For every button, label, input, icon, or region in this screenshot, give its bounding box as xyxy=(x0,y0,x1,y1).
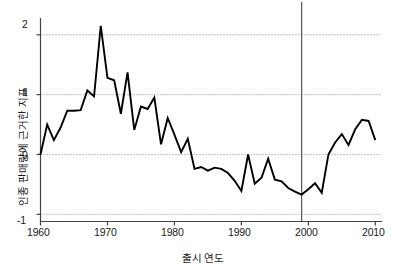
data-series-line xyxy=(41,26,376,195)
x-tick-label-2010: 2010 xyxy=(362,226,385,238)
x-axis-title: 출시 연도 xyxy=(0,250,396,265)
gridlines-group xyxy=(41,35,383,215)
x-tick-marks-group xyxy=(41,222,376,226)
chart-container: 2 1 0 -1 1960 1970 1980 1990 2000 2010 인… xyxy=(0,0,396,268)
x-tick-label-1960: 1960 xyxy=(27,226,50,238)
y-tick-label-2: 2 xyxy=(22,18,28,30)
y-axis-title: 인종 판매량에 근거한 지표 xyxy=(15,87,30,206)
x-tick-label-1980: 1980 xyxy=(161,226,184,238)
x-axis-title-text: 출시 연도 xyxy=(182,252,225,264)
x-tick-label-2000: 2000 xyxy=(295,226,318,238)
x-tick-label-1990: 1990 xyxy=(228,226,251,238)
line-chart-plot xyxy=(0,0,396,268)
x-tick-label-1970: 1970 xyxy=(94,226,117,238)
y-tick-label-minus-1: -1 xyxy=(17,214,26,226)
